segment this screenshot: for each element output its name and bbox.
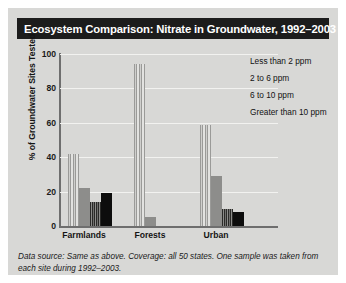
chart-legend: Less than 2 ppm 2 to 6 ppm 6 to 10 ppm G… — [235, 54, 339, 122]
legend-label: Less than 2 ppm — [250, 56, 311, 66]
bar-urban-series-2 — [222, 209, 233, 226]
gray-solid-swatch-icon — [235, 73, 245, 84]
y-tick-100: 100 — [42, 49, 56, 59]
chart-figure: Ecosystem Comparison: Nitrate in Groundw… — [8, 8, 338, 275]
black-solid-swatch-icon — [235, 107, 245, 118]
bar-urban-series-0 — [200, 125, 211, 226]
light-striped-swatch-icon — [235, 56, 245, 67]
bar-farmlands-series-1 — [79, 188, 90, 226]
page-title: Ecosystem Comparison: Nitrate in Groundw… — [17, 23, 336, 35]
legend-label: 2 to 6 ppm — [250, 73, 289, 83]
y-tick-40: 40 — [46, 152, 56, 162]
bar-farmlands-series-0 — [68, 154, 79, 226]
legend-item-greater-than-10-ppm: Greater than 10 ppm — [235, 105, 339, 119]
y-axis-ticks: 100 80 60 40 20 0 — [8, 54, 56, 226]
bar-urban-series-1 — [211, 176, 222, 226]
dark-striped-swatch-icon — [235, 90, 245, 101]
chart-footnote: Data source: Same as above. Coverage: al… — [18, 251, 330, 274]
legend-label: 6 to 10 ppm — [250, 90, 294, 100]
legend-item-6-to-10-ppm: 6 to 10 ppm — [235, 88, 339, 102]
legend-label: Greater than 10 ppm — [250, 107, 327, 117]
y-tick-20: 20 — [46, 187, 56, 197]
bar-group-forests — [134, 54, 178, 226]
x-tick-forests: Forests — [120, 230, 180, 240]
y-tick-60: 60 — [46, 118, 56, 128]
x-axis-line — [59, 226, 278, 228]
bar-forests-series-0 — [134, 64, 145, 226]
legend-item-less-than-2-ppm: Less than 2 ppm — [235, 54, 339, 68]
bar-group-farmlands — [68, 54, 112, 226]
x-tick-urban: Urban — [186, 230, 246, 240]
y-tick-80: 80 — [46, 83, 56, 93]
bar-urban-series-3 — [233, 212, 244, 226]
bar-farmlands-series-3 — [101, 193, 112, 226]
bar-farmlands-series-2 — [90, 202, 101, 226]
legend-item-2-to-6-ppm: 2 to 6 ppm — [235, 71, 339, 85]
x-tick-farmlands: Farmlands — [54, 230, 114, 240]
bar-forests-series-1 — [145, 217, 156, 226]
chart-title-bar: Ecosystem Comparison: Nitrate in Groundw… — [17, 18, 329, 39]
